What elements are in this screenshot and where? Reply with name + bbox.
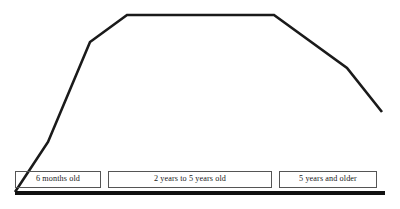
stage-box-label: 6 months old xyxy=(36,175,80,183)
stage-box-2-to-5-years: 2 years to 5 years old xyxy=(108,171,272,188)
stage-box-label: 5 years and older xyxy=(299,175,357,183)
baseline-axis xyxy=(15,191,385,195)
chart-figure: 6 months old 2 years to 5 years old 5 ye… xyxy=(0,0,400,209)
stage-box-label: 2 years to 5 years old xyxy=(154,175,226,183)
trend-line xyxy=(15,15,382,192)
stage-box-6-months: 6 months old xyxy=(15,171,101,188)
stage-label-row: 6 months old 2 years to 5 years old 5 ye… xyxy=(0,171,400,189)
stage-box-5-and-older: 5 years and older xyxy=(279,171,377,188)
